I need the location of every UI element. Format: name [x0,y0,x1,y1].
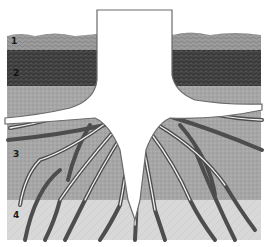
soil-profile-diagram [0,0,266,247]
layer-1-right [172,33,261,51]
layer-1 [7,34,97,51]
layer-label-1: 1 [11,37,17,46]
layer-label-3: 3 [13,150,19,159]
layer-label-2: 2 [13,69,19,78]
layer-label-4: 4 [13,211,19,220]
